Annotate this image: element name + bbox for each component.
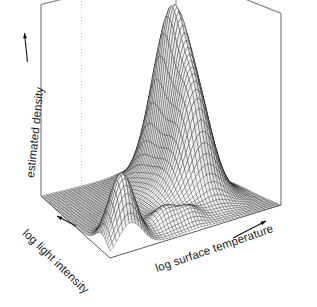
z-axis-arrow: [23, 33, 27, 62]
density-surface-mesh: [41, 5, 281, 252]
persp-plot-canvas: estimated density log light intensity lo…: [0, 0, 317, 307]
density-surface-plot: estimated density log light intensity lo…: [0, 0, 317, 307]
box-top-back-edge: [41, 0, 176, 4]
z-axis-label: estimated density: [24, 86, 45, 178]
y-axis-label: log light intensity: [21, 227, 92, 296]
box-top-right-edge: [176, 0, 281, 13]
